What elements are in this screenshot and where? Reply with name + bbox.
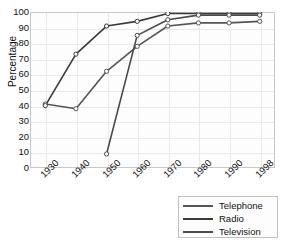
legend-swatch-icon: [183, 231, 213, 233]
data-point-marker: [166, 24, 170, 28]
data-point-marker: [104, 69, 108, 73]
data-point-marker: [196, 21, 200, 25]
y-tick-label: 40: [5, 101, 29, 110]
chart-root: Percentage 1009080706050403020100 193019…: [0, 0, 282, 240]
series-layer: [30, 12, 275, 168]
data-point-marker: [74, 52, 78, 56]
y-tick-label: 0: [5, 163, 29, 172]
data-point-marker: [43, 104, 47, 108]
legend-item-television[interactable]: Television: [183, 226, 273, 238]
y-tick-label: 90: [5, 23, 29, 32]
legend-label: Telephone: [219, 201, 263, 211]
data-point-marker: [258, 13, 262, 17]
chart-legend: TelephoneRadioTelevision: [178, 196, 278, 238]
y-tick-label: 100: [5, 7, 29, 16]
legend-label: Radio: [219, 214, 244, 224]
data-point-marker: [135, 33, 139, 37]
data-point-marker: [166, 18, 170, 22]
series-line-telephone: [45, 21, 259, 108]
y-tick-label: 20: [5, 132, 29, 141]
data-point-marker: [196, 13, 200, 17]
legend-item-telephone[interactable]: Telephone: [183, 200, 273, 212]
data-point-marker: [104, 152, 108, 156]
data-point-marker: [135, 44, 139, 48]
y-tick-label: 80: [5, 38, 29, 47]
y-tick-label: 50: [5, 85, 29, 94]
data-point-marker: [166, 12, 170, 16]
y-tick-label: 30: [5, 116, 29, 125]
data-point-marker: [227, 13, 231, 17]
data-point-marker: [74, 107, 78, 111]
legend-swatch-icon: [183, 205, 213, 207]
data-point-marker: [104, 24, 108, 28]
data-point-marker: [258, 19, 262, 23]
y-tick-label: 70: [5, 54, 29, 63]
data-point-marker: [227, 21, 231, 25]
series-line-television: [107, 15, 260, 154]
y-tick-label: 60: [5, 69, 29, 78]
legend-label: Television: [219, 227, 261, 237]
legend-item-radio[interactable]: Radio: [183, 213, 273, 225]
y-tick-label: 10: [5, 147, 29, 156]
legend-swatch-icon: [183, 218, 213, 220]
data-point-marker: [135, 19, 139, 23]
